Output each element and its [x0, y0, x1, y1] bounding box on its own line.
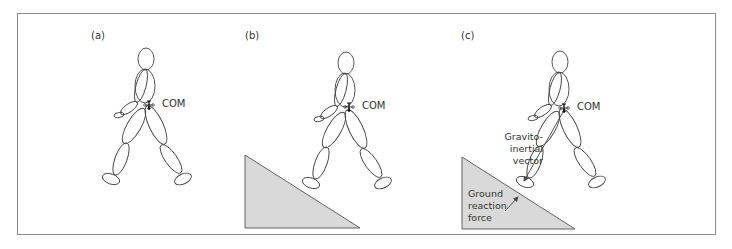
com-icon [344, 103, 355, 112]
panel-a-label: (a) [91, 31, 105, 41]
panel-b-label: (b) [245, 31, 259, 41]
walking-figures-diagram [0, 0, 732, 249]
panel-b-com-label: COM [362, 101, 385, 111]
ground-reaction-force-label: Ground reaction force [468, 188, 507, 224]
gravito-inertial-vector-label: Gravito- inertial vector [497, 131, 543, 167]
panel-a-walker [101, 48, 193, 187]
panel-b-ramp [245, 155, 360, 228]
panel-c-label: (c) [461, 31, 474, 41]
panel-b-walker [301, 52, 393, 191]
panel-c-walker [515, 51, 607, 190]
panel-a-com-label: COM [162, 99, 185, 109]
panel-c-com-label: COM [577, 102, 600, 112]
